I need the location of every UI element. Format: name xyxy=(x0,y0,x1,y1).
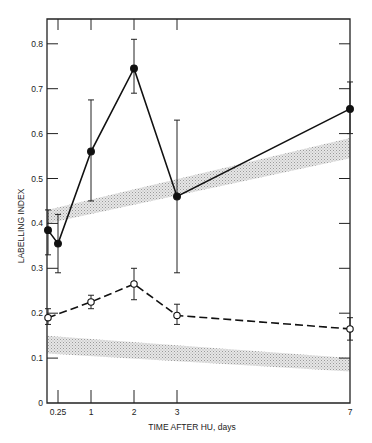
data-point-marker xyxy=(131,65,138,72)
data-point-marker xyxy=(55,240,62,247)
x-axis-label: TIME AFTER HU, days xyxy=(148,422,235,432)
data-point-marker xyxy=(45,314,51,320)
data-point-marker xyxy=(45,227,52,234)
shaded-band xyxy=(47,336,350,372)
data-point-marker xyxy=(347,106,354,113)
x-tick-label: 1 xyxy=(89,407,94,417)
x-tick-label: 0.25 xyxy=(50,407,67,417)
open-circle-series xyxy=(45,268,353,340)
x-tick-label: 3 xyxy=(175,407,180,417)
y-tick-label: 0 xyxy=(38,398,43,408)
data-point-marker xyxy=(88,299,94,305)
y-tick-label: 0.7 xyxy=(31,84,43,94)
data-point-marker xyxy=(131,281,137,287)
y-tick-label: 0.8 xyxy=(31,39,43,49)
labelling-index-chart: 0.251237 00.10.20.30.40.50.60.70.8 TIME … xyxy=(0,0,372,443)
data-point-marker xyxy=(347,326,353,332)
y-tick-label: 0.4 xyxy=(31,218,43,228)
y-tick-label: 0.5 xyxy=(31,174,43,184)
y-tick-label: 0.3 xyxy=(31,263,43,273)
data-point-marker xyxy=(88,148,95,155)
data-point-marker xyxy=(174,312,180,318)
x-tick-label: 2 xyxy=(132,407,137,417)
data-point-marker xyxy=(174,193,181,200)
y-tick-label: 0.6 xyxy=(31,129,43,139)
y-tick-label: 0.2 xyxy=(31,308,43,318)
shaded-bands xyxy=(47,138,350,371)
x-tick-label: 7 xyxy=(348,407,353,417)
y-tick-label: 0.1 xyxy=(31,353,43,363)
y-axis-label: LABELLING INDEX xyxy=(16,188,26,263)
